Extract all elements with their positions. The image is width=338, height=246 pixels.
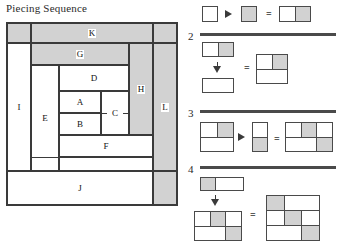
- block-region-K: K: [31, 23, 153, 43]
- patch: [302, 123, 318, 137]
- step-1-equals: =: [266, 8, 272, 19]
- step-3-operand-a: [200, 122, 234, 152]
- block-region-corner-br: [153, 171, 177, 205]
- block-region-F: F: [59, 135, 153, 157]
- block-region-I-label: I: [17, 103, 22, 112]
- block-region-filler-lower-left: [31, 157, 59, 171]
- patch: [280, 7, 296, 21]
- patch: [219, 43, 234, 56]
- patch: [302, 226, 319, 240]
- patch: [286, 138, 317, 152]
- patch: [201, 138, 233, 152]
- block-region-I: I: [7, 43, 31, 171]
- patch: [286, 123, 302, 137]
- block-region-H: H: [129, 43, 153, 135]
- patch: [242, 7, 256, 21]
- block-region-L-label: L: [161, 103, 169, 112]
- block-region-G: G: [31, 43, 129, 65]
- block-region-F-label: F: [102, 142, 109, 151]
- block-region-A: A: [59, 91, 101, 113]
- step-4-operand-a: [200, 177, 244, 191]
- step-2-rule: [200, 33, 336, 36]
- patch: [226, 227, 241, 241]
- step-1-operand-b: [241, 6, 257, 22]
- patch: [203, 79, 233, 92]
- block-region-E: E: [31, 65, 59, 171]
- block-region-K-label: K: [88, 29, 97, 38]
- patch: [267, 196, 285, 210]
- step-2: =: [186, 40, 338, 102]
- block-region-C-label: C: [111, 109, 119, 118]
- patch: [296, 7, 311, 21]
- patch: [317, 123, 332, 137]
- patch: [267, 226, 302, 240]
- block-region-J-label: J: [77, 184, 83, 193]
- patch: [216, 178, 243, 190]
- block-region-corner-tl: [7, 23, 31, 43]
- step-4-operand-b: [194, 211, 242, 241]
- block-region-H-label: H: [137, 85, 146, 94]
- step-2-operand-a: [202, 42, 234, 57]
- block-region-D-label: D: [90, 74, 99, 83]
- block-region-D: D: [59, 65, 129, 91]
- patch: [203, 7, 217, 21]
- patch: [285, 211, 303, 225]
- patch: [218, 123, 234, 137]
- join-arrow-down-icon: [211, 199, 219, 206]
- patch: [253, 123, 267, 137]
- patch: [211, 212, 227, 226]
- page-title: Piecing Sequence: [6, 2, 87, 14]
- block-region-corner-tr: [153, 23, 177, 43]
- patch: [285, 196, 319, 210]
- patch: [195, 212, 211, 226]
- patch: [302, 211, 319, 225]
- step-1: =: [186, 0, 338, 28]
- step-3-result: [285, 122, 333, 152]
- block-region-B: B: [59, 113, 101, 135]
- step-4-equals: =: [250, 209, 256, 220]
- join-arrow-right-icon: [238, 133, 245, 141]
- block-region-L: L: [153, 43, 177, 171]
- block-region-B-label: B: [76, 120, 84, 129]
- step-4-rule: [200, 166, 336, 169]
- patch: [257, 70, 287, 84]
- patch: [317, 138, 332, 152]
- patch: [273, 55, 288, 69]
- step-2-operand-b: [202, 78, 234, 93]
- step-3-rule: [200, 110, 336, 113]
- step-4-result: [266, 195, 320, 241]
- patch: [226, 212, 241, 226]
- join-arrow-down-icon: [213, 66, 221, 73]
- step-sequence: = 2 = 3: [186, 0, 338, 246]
- patch: [267, 211, 285, 225]
- c-leader-right: [123, 113, 129, 114]
- step-2-result: [256, 54, 288, 84]
- patch: [203, 43, 219, 56]
- block-region-G-label: G: [76, 50, 85, 59]
- patch: [253, 138, 267, 152]
- block-region-A-label: A: [76, 98, 85, 107]
- patch: [201, 178, 216, 190]
- patch: [201, 123, 218, 137]
- patch: [195, 227, 226, 241]
- step-3: =: [186, 117, 338, 162]
- step-1-result: [279, 6, 311, 22]
- patch: [257, 55, 273, 69]
- step-4: =: [186, 173, 338, 246]
- block-region-J: J: [7, 171, 153, 205]
- join-arrow-right-icon: [225, 10, 232, 18]
- step-2-equals: =: [244, 62, 250, 73]
- step-3-equals: =: [274, 133, 280, 144]
- step-3-operand-b: [252, 122, 268, 152]
- piecing-block-diagram: K I G E D A C B F H L J: [6, 22, 178, 206]
- block-region-filler-lower-mid: [59, 157, 153, 171]
- block-region-E-label: E: [41, 114, 49, 123]
- step-1-operand-a: [202, 6, 218, 22]
- c-leader-left: [101, 113, 107, 114]
